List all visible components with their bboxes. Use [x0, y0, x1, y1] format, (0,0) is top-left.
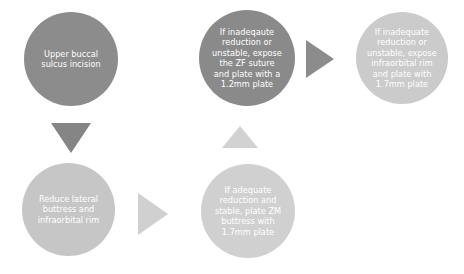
node-text-line: reduction or: [367, 37, 437, 48]
node-text-line: infraorbital rim: [38, 215, 99, 226]
node-text-line: buttress and: [38, 204, 99, 215]
node-text-line: and plate with: [367, 69, 437, 80]
node-text-line: unstable, expose: [367, 48, 437, 59]
node-text-line: unstable, expose: [212, 48, 282, 59]
node-text-line: buttress with: [215, 216, 281, 227]
node-text-line: and plate with a: [212, 69, 282, 80]
arrow-up-icon: [222, 126, 258, 148]
node-text-line: If adequate: [215, 185, 281, 196]
node-expose-infraorbital-rim: If inadequate reduction or unstable, exp…: [356, 12, 448, 104]
arrow-right-icon: [306, 40, 334, 78]
node-text-line: reduction or: [212, 37, 282, 48]
node-text-line: stable, plate ZM: [215, 206, 281, 217]
node-text-line: reduction and: [215, 195, 281, 206]
node-text-line: Reduce lateral: [38, 194, 99, 205]
arrow-down-icon: [51, 123, 91, 153]
arrow-right-icon: [138, 193, 168, 235]
node-text-line: 1.7mm plate: [367, 79, 437, 90]
node-upper-buccal-sulcus-incision: Upper buccal sulcus incision: [24, 12, 118, 106]
node-text-line: 1.2mm plate: [212, 79, 282, 90]
node-text-line: sulcus incision: [41, 59, 100, 70]
node-text-line: 1.7mm plate: [215, 227, 281, 238]
node-reduce-lateral-buttress: Reduce lateral buttress and infraorbital…: [22, 163, 115, 256]
node-adequate-reduction-plate-zm: If adequate reduction and stable, plate …: [201, 164, 295, 258]
node-text-line: If inadequate: [367, 27, 437, 38]
node-expose-zf-suture: If inadeqaute reduction or unstable, exp…: [199, 10, 295, 106]
node-text-line: infraorbital rim: [367, 58, 437, 69]
node-text-line: Upper buccal: [41, 49, 100, 60]
node-text-line: the ZF suture: [212, 58, 282, 69]
node-text-line: If inadeqaute: [212, 27, 282, 38]
